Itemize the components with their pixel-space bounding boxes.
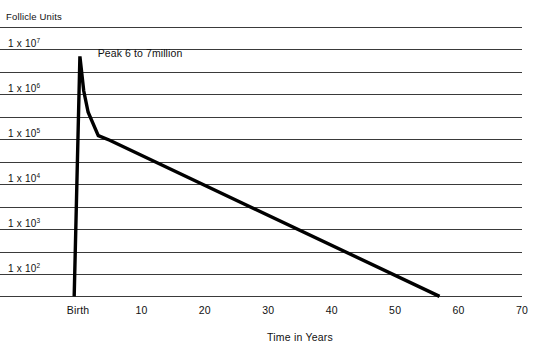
y-axis-tick-label: 1 x 106	[8, 83, 40, 94]
gridline	[0, 274, 522, 275]
y-tick-exponent: 5	[36, 127, 40, 134]
gridline	[0, 229, 522, 230]
x-axis-tick-label: 20	[199, 304, 211, 316]
x-axis-tick-label: 30	[262, 304, 274, 316]
x-axis-tick-label: 50	[389, 304, 401, 316]
y-axis-tick-label: 1 x 107	[8, 38, 40, 49]
x-axis-tick-label: 40	[326, 304, 338, 316]
y-tick-exponent: 2	[36, 262, 40, 269]
gridline	[0, 252, 522, 253]
y-tick-exponent: 6	[36, 82, 40, 89]
gridline	[0, 94, 522, 95]
gridline	[0, 162, 522, 163]
follicle-units-chart: Follicle Units 1 x 1071 x 1061 x 1051 x …	[0, 0, 552, 356]
gridline	[0, 296, 522, 297]
gridline	[0, 184, 522, 185]
gridline	[0, 27, 522, 28]
y-tick-mantissa: 1 x 10	[8, 83, 36, 94]
gridline	[0, 207, 522, 208]
x-axis-tick-label: 10	[135, 304, 147, 316]
y-tick-mantissa: 1 x 10	[8, 263, 36, 274]
x-axis-tick-label: 60	[453, 304, 465, 316]
y-tick-exponent: 4	[36, 172, 40, 179]
plot-area	[0, 0, 552, 356]
gridline	[0, 49, 522, 50]
gridline	[0, 117, 522, 118]
x-axis-tick-label: 70	[516, 304, 528, 316]
y-axis-tick-label: 1 x 105	[8, 128, 40, 139]
x-axis-title: Time in Years	[267, 331, 333, 343]
y-tick-mantissa: 1 x 10	[8, 173, 36, 184]
y-tick-exponent: 3	[36, 217, 40, 224]
x-axis-tick-label: Birth	[67, 304, 90, 316]
y-tick-mantissa: 1 x 10	[8, 38, 36, 49]
y-axis-tick-label: 1 x 104	[8, 173, 40, 184]
y-axis-tick-label: 1 x 102	[8, 263, 40, 274]
follicle-count-line	[74, 56, 439, 296]
chart-annotation: Peak 6 to 7million	[98, 47, 183, 59]
gridline	[0, 72, 522, 73]
gridline	[0, 139, 522, 140]
y-axis-tick-label: 1 x 103	[8, 218, 40, 229]
y-tick-exponent: 7	[36, 37, 40, 44]
y-tick-mantissa: 1 x 10	[8, 128, 36, 139]
y-axis-title: Follicle Units	[6, 11, 62, 22]
y-tick-mantissa: 1 x 10	[8, 218, 36, 229]
